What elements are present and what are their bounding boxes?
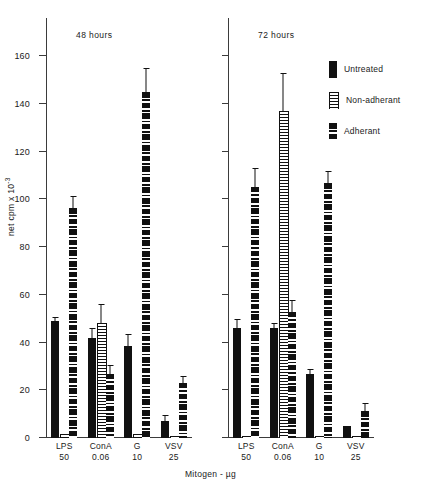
- x-tick-dose: 25: [156, 452, 193, 463]
- y-tick-20: 20: [39, 389, 46, 390]
- figure-root: net cpm x 10-3 48 hours 0204060801001201…: [0, 0, 421, 495]
- y-tick-160: 160: [39, 55, 46, 56]
- error-bar: [237, 319, 238, 329]
- error-bar: [100, 304, 101, 323]
- x-axis-title: Mitogen - µg: [0, 469, 421, 479]
- bar-group-vsv: [156, 37, 193, 438]
- bar-group-lps: [46, 37, 83, 438]
- y-tick-0: 0: [39, 437, 46, 438]
- x-tick-dose: 0.06: [265, 452, 302, 463]
- bar-g-non-adherant[interactable]: [315, 37, 323, 438]
- x-tick-dose: 10: [119, 452, 156, 463]
- y-tick-140: 140: [39, 103, 46, 104]
- error-bar: [282, 73, 283, 111]
- bar-lps-untreated[interactable]: [51, 37, 59, 438]
- y-tick-label-100: 100: [14, 194, 30, 204]
- bar-fill: [288, 312, 296, 439]
- bar-fill: [142, 92, 150, 438]
- legend-label: Adherant: [344, 126, 380, 136]
- bar-fill: [106, 374, 114, 438]
- error-bar: [164, 415, 165, 421]
- y-tick-120: 120: [39, 151, 46, 152]
- legend-label: Untreated: [344, 64, 383, 74]
- bar-g-untreated[interactable]: [124, 37, 132, 438]
- bar-fill: [343, 426, 351, 438]
- error-bar: [146, 68, 147, 92]
- bar-lps-adherant[interactable]: [69, 37, 77, 438]
- y-tick-label-0: 0: [25, 433, 30, 443]
- y-tick-label-80: 80: [20, 242, 30, 252]
- bar-fill: [361, 411, 369, 438]
- bar-cona-non-adherant[interactable]: [97, 37, 105, 438]
- bar-cona-untreated[interactable]: [88, 37, 96, 438]
- bar-fill: [324, 183, 332, 438]
- bar-cona-adherant[interactable]: [288, 37, 296, 438]
- x-tick-vsv: VSV25: [156, 441, 193, 463]
- bar-fill: [251, 187, 259, 438]
- x-tick-g: G10: [301, 441, 338, 463]
- bar-fill: [161, 421, 169, 438]
- x-tick-name: ConA: [83, 441, 120, 452]
- error-bar: [91, 328, 92, 338]
- bar-cona-untreated[interactable]: [270, 37, 278, 438]
- error-bar: [109, 365, 110, 373]
- y-axis-title: net cpm x 10-3: [4, 177, 16, 236]
- bar-lps-non-adherant[interactable]: [242, 37, 250, 438]
- y-axis-title-exponent: -3: [4, 177, 11, 183]
- y-tick-label-60: 60: [20, 290, 30, 300]
- bar-fill: [51, 321, 59, 438]
- y-tick-label-160: 160: [14, 51, 30, 61]
- error-bar: [128, 334, 129, 346]
- x-tick-cona: ConA0.06: [265, 441, 302, 463]
- y-tick-80: 80: [39, 246, 46, 247]
- bar-g-adherant[interactable]: [142, 37, 150, 438]
- x-tick-name: VSV: [338, 441, 375, 452]
- x-tick-name: VSV: [156, 441, 193, 452]
- error-bar: [55, 317, 56, 321]
- bar-vsv-adherant[interactable]: [179, 37, 187, 438]
- x-axis-labels-48: LPS50ConA0.06G10VSV25: [46, 441, 192, 463]
- y-tick-label-20: 20: [20, 385, 30, 395]
- x-tick-name: G: [119, 441, 156, 452]
- bar-lps-adherant[interactable]: [251, 37, 259, 438]
- y-tick-60: 60: [39, 294, 46, 295]
- bar-g-untreated[interactable]: [306, 37, 314, 438]
- bar-g-non-adherant[interactable]: [133, 37, 141, 438]
- bar-lps-non-adherant[interactable]: [60, 37, 68, 438]
- bar-lps-untreated[interactable]: [233, 37, 241, 438]
- y-tick-label-140: 140: [14, 99, 30, 109]
- x-tick-dose: 25: [338, 452, 375, 463]
- x-tick-lps: LPS50: [228, 441, 265, 463]
- x-axis-labels-72: LPS50ConA0.06G10VSV25: [228, 441, 374, 463]
- legend-item-non-adherant: Non-adherant: [329, 89, 400, 111]
- x-tick-cona: ConA0.06: [83, 441, 120, 463]
- y-axis-title-text: net cpm x 10: [6, 184, 16, 236]
- bar-fill: [306, 374, 314, 438]
- bar-group-lps: [228, 37, 265, 438]
- bar-fill: [88, 338, 96, 438]
- error-bar: [291, 300, 292, 312]
- bar-vsv-non-adherant[interactable]: [170, 37, 178, 438]
- x-tick-g: G10: [119, 441, 156, 463]
- bar-cona-non-adherant[interactable]: [279, 37, 287, 438]
- bar-vsv-untreated[interactable]: [161, 37, 169, 438]
- panel-48-hours: 48 hours 020406080100120140160 LPS50ConA…: [46, 18, 192, 438]
- bar-group-cona: [83, 37, 120, 438]
- x-tick-name: G: [301, 441, 338, 452]
- x-tick-dose: 10: [301, 452, 338, 463]
- y-tick-label-40: 40: [20, 338, 30, 348]
- bar-group-g: [119, 37, 156, 438]
- bar-groups-48-hours: [46, 37, 192, 438]
- error-bar: [310, 369, 311, 374]
- error-bar: [182, 376, 183, 383]
- legend-label: Non-adherant: [346, 95, 400, 105]
- bar-fill: [270, 328, 278, 438]
- x-tick-dose: 50: [228, 452, 265, 463]
- error-bar: [73, 196, 74, 208]
- y-tick-label-120: 120: [14, 147, 30, 157]
- x-tick-name: LPS: [228, 441, 265, 452]
- error-bar: [328, 171, 329, 183]
- legend-swatch: [329, 61, 337, 78]
- x-tick-name: ConA: [265, 441, 302, 452]
- bar-cona-adherant[interactable]: [106, 37, 114, 438]
